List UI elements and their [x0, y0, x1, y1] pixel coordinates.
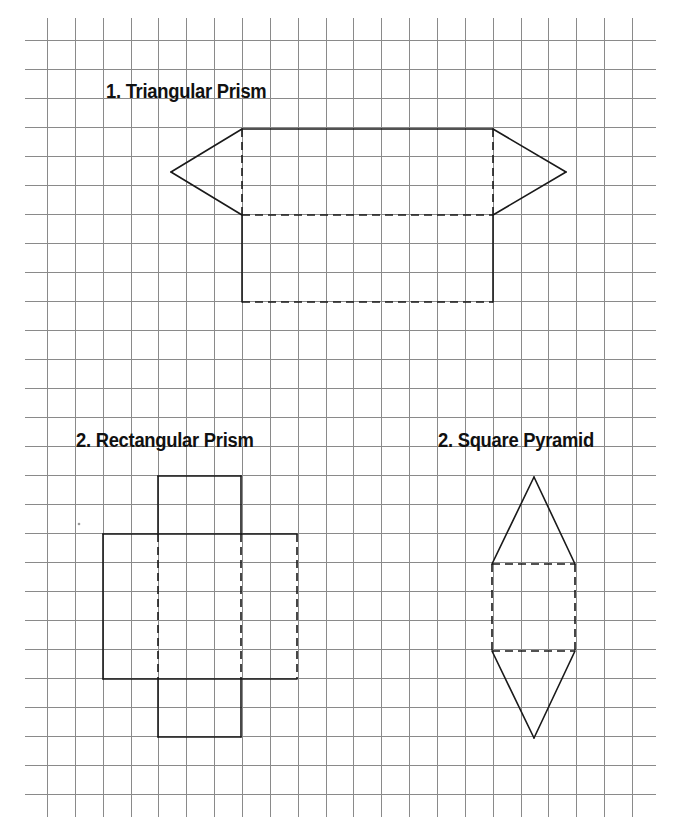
- net-edge-solid: [492, 651, 534, 738]
- net-edge-solid: [492, 477, 534, 564]
- speck-mark: [78, 523, 81, 526]
- square-pyramid-title: 2. Square Pyramid: [438, 430, 594, 450]
- stray-marks: [78, 523, 81, 526]
- net-edge-solid: [493, 172, 566, 215]
- net-edge-solid: [171, 172, 242, 215]
- net-edge-solid: [534, 651, 575, 738]
- square-pyramid-net: [492, 477, 575, 738]
- net-edge-solid: [534, 477, 575, 564]
- net-edge-solid: [171, 129, 242, 172]
- triangular-prism-title: 1. Triangular Prism: [106, 81, 266, 101]
- rectangular-prism-net: [103, 476, 297, 737]
- graph-paper-canvas: [0, 0, 678, 820]
- triangular-prism-net: [171, 129, 566, 302]
- net-edge-solid: [493, 129, 566, 172]
- grid-lines: [25, 18, 656, 817]
- rectangular-prism-title: 2. Rectangular Prism: [76, 430, 254, 450]
